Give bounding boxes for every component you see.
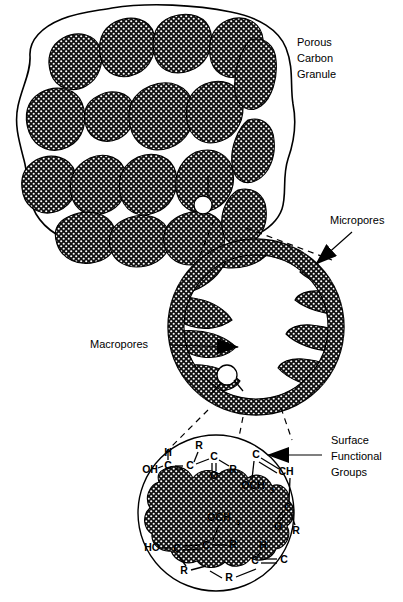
granule-level: Porous Carbon Granule (17, 5, 337, 267)
surface-groups-label-line1: Surface (331, 434, 369, 446)
carbon-domain (55, 212, 116, 263)
connector-dash-right (281, 408, 292, 440)
chem-subscript: 3 (270, 486, 274, 495)
chem-label: C (210, 450, 218, 462)
chem-label: C (252, 448, 260, 460)
surface-groups-label-line3: Groups (331, 466, 368, 478)
chem-label: R (225, 571, 233, 583)
chem-label: OH (142, 463, 158, 475)
chem-label: R (229, 463, 237, 475)
granule-label-line2: Carbon (297, 52, 333, 64)
figure-canvas: Porous Carbon Granule (0, 0, 403, 602)
chem-label: C (284, 501, 292, 513)
chem-label: R (180, 564, 188, 576)
pore-marker-circle (194, 196, 212, 214)
chem-label: C (173, 542, 181, 554)
chem-label: R (229, 538, 237, 550)
carbon-domain (109, 215, 170, 267)
carbon-domain (26, 88, 85, 150)
surface-groups-level: OH H C C R C O R C CH OCH 3 C O R OCH 3 … (138, 434, 382, 591)
chem-label: O (274, 520, 282, 532)
carbon-domain (22, 156, 77, 213)
macropores-label: Macropores (90, 338, 149, 350)
chem-label: C (251, 554, 259, 566)
granule-label-line1: Porous (297, 36, 332, 48)
chem-label: C (202, 539, 210, 551)
chem-label: HO (144, 541, 160, 553)
chem-label: C (164, 459, 172, 471)
chem-label: C (186, 459, 194, 471)
chem-label: H (164, 446, 172, 458)
chem-label: OCH (241, 479, 264, 491)
chem-label: CH (278, 465, 293, 477)
chem-label: R (292, 524, 300, 536)
micropores-arrow (316, 232, 352, 264)
chem-label: H (259, 539, 267, 551)
chem-subscript: 3 (236, 518, 240, 527)
chem-label: C (280, 553, 288, 565)
carbon-granule-diagram: Porous Carbon Granule (0, 0, 403, 602)
micropores-label: Micropores (330, 214, 385, 226)
chem-label: O (210, 469, 218, 481)
surface-groups-label-line2: Functional (331, 450, 382, 462)
chem-label: R (195, 439, 203, 451)
chem-label: OCH (207, 511, 230, 523)
granule-label-line3: Granule (297, 68, 336, 80)
macropore-marker-circle (217, 365, 237, 385)
